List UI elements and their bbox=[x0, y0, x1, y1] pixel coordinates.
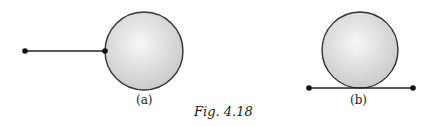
endpoint-dot-b-right bbox=[410, 85, 416, 91]
attachment-dot-a bbox=[102, 48, 108, 54]
sphere-b bbox=[322, 12, 398, 88]
panel-label-b: (b) bbox=[350, 93, 367, 107]
endpoint-dot-a-left bbox=[22, 48, 28, 54]
panel-a bbox=[22, 12, 183, 90]
panel-b bbox=[306, 12, 416, 91]
panel-label-a: (a) bbox=[136, 93, 153, 107]
endpoint-dot-b-left bbox=[306, 85, 312, 91]
sphere-a bbox=[105, 12, 183, 90]
figure-caption: Fig. 4.18 bbox=[194, 104, 253, 119]
